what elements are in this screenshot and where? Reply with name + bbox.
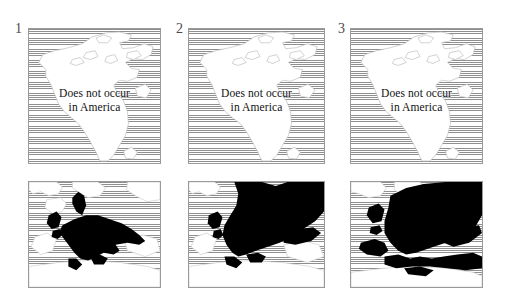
map-europe-1 <box>28 181 161 288</box>
panel-label-1: 1 <box>15 22 22 36</box>
panel-label-3: 3 <box>338 22 345 36</box>
map-europe-3 <box>350 181 483 288</box>
figure-panel-grid: 1 Does not occur in America <box>0 0 506 296</box>
panel-label-2: 2 <box>176 22 183 36</box>
europe-landmass <box>351 182 482 287</box>
europe-landmass <box>189 182 324 287</box>
map-north-america-2: Does not occur in America <box>188 28 325 164</box>
map-north-america-3: Does not occur in America <box>350 28 483 164</box>
north-america-landmass <box>351 29 482 163</box>
north-america-landmass <box>189 29 324 163</box>
map-north-america-1: Does not occur in America <box>28 28 161 164</box>
map-europe-2 <box>188 181 325 288</box>
north-america-landmass <box>29 29 160 163</box>
europe-landmass <box>29 182 160 287</box>
